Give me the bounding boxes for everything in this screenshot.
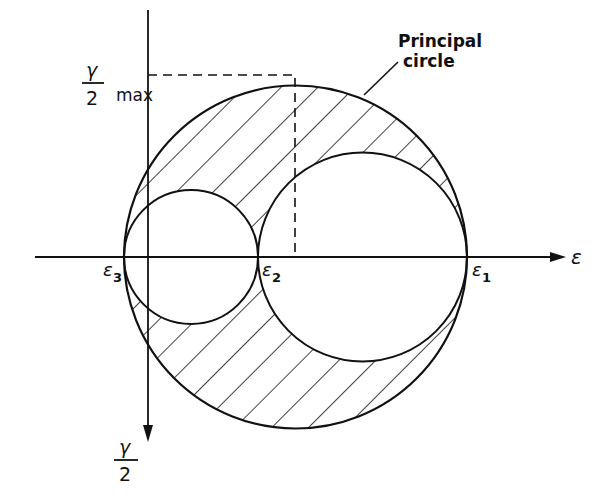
e1-symbol: ε [472, 259, 482, 280]
e2-symbol: ε [262, 259, 272, 280]
max-label-suffix: max [116, 85, 153, 105]
e1-subscript: 1 [482, 270, 491, 285]
mohr-circle-diagram: Principal circle γ 2 max γ 2 ε ε 3 ε 2 ε… [0, 0, 604, 496]
gamma-axis-label-numerator: γ [119, 436, 132, 458]
principal-label-line1: Principal [398, 31, 482, 51]
epsilon-axis-label: ε [571, 245, 582, 269]
e3-subscript: 3 [113, 270, 122, 285]
gamma-axis-label-denominator: 2 [119, 463, 131, 485]
principal-label-line2: circle [403, 51, 455, 71]
e2-subscript: 2 [272, 270, 281, 285]
max-label-numerator: γ [86, 59, 99, 81]
max-label-denominator: 2 [86, 87, 98, 109]
e3-symbol: ε [103, 259, 113, 280]
